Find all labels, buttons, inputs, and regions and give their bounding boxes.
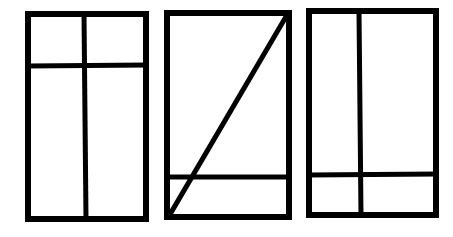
diagram-canvas [0, 0, 453, 237]
panel-1-window-grid [28, 14, 146, 219]
panel-2-diagonal-split [167, 13, 289, 217]
panel-3-window-grid [309, 11, 436, 215]
diagonal-divider-line [169, 15, 287, 216]
horizontal-divider-line [309, 174, 436, 175]
vertical-divider-line [84, 14, 86, 219]
vertical-divider-line [359, 11, 361, 215]
panel-frame [309, 11, 436, 215]
